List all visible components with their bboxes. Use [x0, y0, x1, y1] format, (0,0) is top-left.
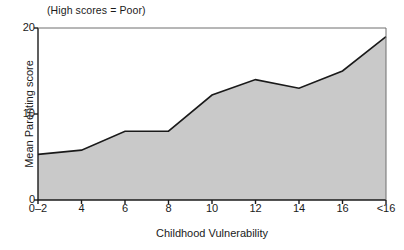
y-tick-label: 10	[9, 108, 35, 119]
x-tick-label: 6	[105, 203, 145, 214]
x-tick-label: 14	[279, 203, 319, 214]
chart-figure: (High scores = Poor) Mean Parenting scor…	[0, 0, 404, 250]
x-axis-tick-labels: 0–246810121416<16	[0, 203, 404, 221]
x-tick-label: 4	[62, 203, 102, 214]
chart-annotation: (High scores = Poor)	[47, 4, 146, 16]
x-tick-label: 16	[323, 203, 363, 214]
y-tick-label: 20	[9, 22, 35, 33]
data-area-fill	[38, 37, 386, 200]
x-tick-label: 10	[192, 203, 232, 214]
x-tick-label: 12	[236, 203, 276, 214]
x-tick-label: <16	[366, 203, 404, 214]
x-tick-label: 0–2	[18, 203, 58, 214]
x-tick-label: 8	[149, 203, 189, 214]
x-axis-title: Childhood Vulnerability	[38, 227, 386, 239]
